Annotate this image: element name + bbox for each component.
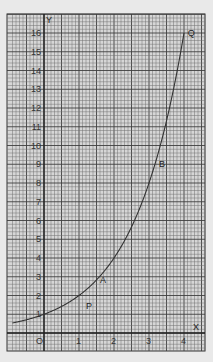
x-tick-label: 3 bbox=[146, 336, 151, 346]
y-tick-label: 13 bbox=[31, 84, 41, 94]
y-tick-label: 4 bbox=[36, 253, 41, 263]
x-tick-label: 1 bbox=[76, 336, 81, 346]
y-tick-label: 1 bbox=[36, 309, 41, 319]
y-tick-label: 10 bbox=[31, 141, 41, 151]
y-tick-label: 15 bbox=[31, 47, 41, 57]
y-tick-label: 8 bbox=[36, 178, 41, 188]
y-tick-label: 7 bbox=[36, 197, 41, 207]
point-label-a: A bbox=[100, 275, 106, 285]
y-tick-label: 6 bbox=[36, 216, 41, 226]
exponential-graph: O123412345678910111213141516 PABQ X Y bbox=[0, 0, 213, 362]
y-tick-label: 2 bbox=[36, 291, 41, 301]
y-tick-label: 12 bbox=[31, 103, 41, 113]
y-tick-label: 5 bbox=[36, 234, 41, 244]
y-tick-label: 14 bbox=[31, 66, 41, 76]
x-axis-label: X bbox=[193, 322, 199, 332]
y-tick-label: 3 bbox=[36, 272, 41, 282]
point-label-q: Q bbox=[188, 28, 195, 38]
origin-label: O bbox=[36, 336, 43, 346]
x-tick-label: 4 bbox=[181, 336, 186, 346]
point-label-b: B bbox=[159, 159, 165, 169]
x-tick-label: 2 bbox=[111, 336, 116, 346]
y-tick-label: 11 bbox=[32, 122, 41, 132]
y-tick-label: 16 bbox=[31, 28, 41, 38]
point-label-p: P bbox=[86, 301, 92, 311]
y-tick-label: 9 bbox=[36, 159, 41, 169]
y-axis-label: Y bbox=[46, 15, 52, 25]
